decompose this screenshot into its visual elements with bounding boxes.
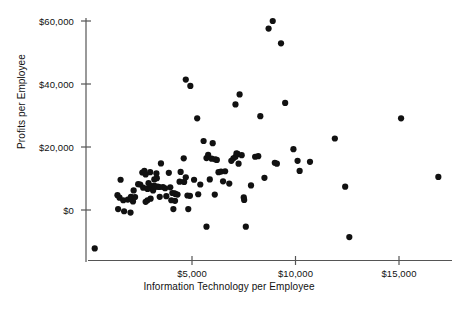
data-point — [257, 113, 263, 119]
data-point — [170, 206, 176, 212]
data-point — [274, 161, 280, 167]
data-point — [183, 76, 189, 82]
data-point — [185, 206, 191, 212]
data-point — [332, 135, 338, 141]
data-point — [163, 193, 169, 199]
data-point — [346, 234, 352, 240]
data-point — [282, 100, 288, 106]
x-tick-label: $10,000 — [278, 268, 313, 279]
data-point — [191, 177, 197, 183]
data-point — [176, 179, 182, 185]
data-point — [187, 193, 193, 199]
data-point — [222, 168, 228, 174]
y-tick-label: $20,000 — [0, 142, 74, 153]
data-point — [166, 170, 172, 176]
data-point — [297, 168, 303, 174]
data-point — [261, 175, 267, 181]
y-axis-title: Profits per Employee — [16, 37, 27, 167]
data-point — [226, 180, 232, 186]
data-point — [210, 140, 216, 146]
data-point — [232, 101, 238, 107]
data-point — [342, 184, 348, 190]
data-point — [195, 191, 201, 197]
data-point — [158, 160, 164, 166]
data-point — [248, 182, 254, 188]
data-point — [132, 194, 138, 200]
data-point — [290, 146, 296, 152]
data-point — [143, 199, 149, 205]
data-point — [265, 25, 271, 31]
data-point — [168, 197, 174, 203]
data-point — [115, 206, 121, 212]
data-point — [121, 208, 127, 214]
data-point — [435, 174, 441, 180]
y-tick-label: $60,000 — [0, 16, 74, 27]
data-point — [117, 177, 123, 183]
data-point — [194, 115, 200, 121]
data-point — [145, 180, 151, 186]
x-tick-label: $15,000 — [381, 268, 416, 279]
data-point — [127, 209, 133, 215]
data-point — [181, 155, 187, 161]
x-axis-title: Information Technology per Employee — [0, 281, 458, 292]
data-point — [236, 91, 242, 97]
data-point — [235, 161, 241, 167]
plot-area — [0, 0, 458, 310]
data-point — [197, 181, 203, 187]
data-point — [162, 185, 168, 191]
x-tick-label: $5,000 — [177, 268, 207, 279]
data-point — [212, 191, 218, 197]
data-point — [207, 176, 213, 182]
data-point — [200, 138, 206, 144]
data-point — [239, 152, 245, 158]
data-point — [270, 18, 276, 24]
y-tick-label: $40,000 — [0, 79, 74, 90]
data-point — [243, 224, 249, 230]
data-point — [307, 159, 313, 165]
data-point — [153, 170, 159, 176]
data-point — [203, 224, 209, 230]
data-point — [174, 191, 180, 197]
data-point — [92, 245, 98, 251]
data-point — [187, 83, 193, 89]
data-point — [252, 154, 258, 160]
data-point — [278, 40, 284, 46]
y-tick-label: $0 — [0, 205, 74, 216]
data-point — [209, 156, 215, 162]
data-point — [398, 115, 404, 121]
data-point — [214, 157, 220, 163]
data-point — [157, 194, 163, 200]
data-points — [92, 18, 442, 252]
data-point — [167, 184, 173, 190]
data-point — [131, 187, 137, 193]
data-point — [178, 169, 184, 175]
data-point — [294, 158, 300, 164]
data-point — [220, 178, 226, 184]
data-point — [241, 197, 247, 203]
data-point — [147, 169, 153, 175]
scatter-chart: $0$20,000$40,000$60,000 $5,000$10,000$15… — [0, 0, 458, 310]
